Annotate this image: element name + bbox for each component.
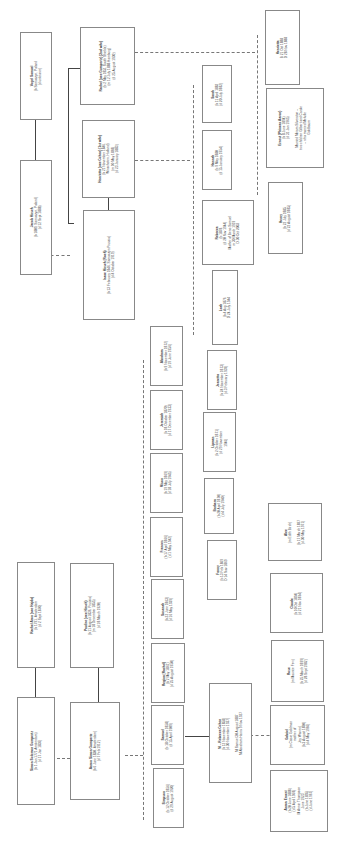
person-rose: Rose(m Maurice Few) (b 25 March 1899)(d … xyxy=(271,640,324,702)
person-detail-line: D 24 July 1944 xyxy=(227,297,231,318)
person-lipman: Lipman(b 2 October 1871)(d 29 November19… xyxy=(203,412,236,472)
person-detail-line: (d 4 July 1940) xyxy=(221,494,225,517)
dashed-henrietta-children xyxy=(135,160,190,161)
dashed-rachel-children xyxy=(135,52,255,53)
dashed-rachel-children-v xyxy=(257,35,258,195)
person-detail-line: M Abraham Harris 9 Nov 1927 xyxy=(239,712,243,755)
person-detail-line: (m 18 December 1855) xyxy=(92,596,96,635)
person-aaron-gumpertz: Aaron Simon Gumpertz(b 6 June 1830, Amst… xyxy=(70,702,120,800)
person-fanny: Fanny(b 13 Feb 1869D 14 Nov 1869 xyxy=(207,540,237,600)
person-detail-line: (b 9 May 1880 xyxy=(215,146,219,175)
person-frances: Frances(b 17 April 1866)(d 1 May 1942) xyxy=(150,517,183,577)
person-henrietta-cohen: Henrietta (nee Cohen) (1st wife)(b 21 No… xyxy=(82,120,135,198)
person-name: Pauline (nee Hirsch) xyxy=(84,596,88,635)
person-detail-line: (b 24 November 1873) xyxy=(220,364,224,396)
person-text: Lipman(b 2 October 1871)(d 29 November19… xyxy=(211,429,228,456)
person-detail-line: (d 18 July 1945) xyxy=(169,471,173,494)
dashed-second-gen-v xyxy=(143,360,144,820)
person-pauline: Pauline (nee Hirsch)(b 11 August 1836, P… xyxy=(70,563,114,668)
person-text: Susanah(b 22 June 1863)(d 16 May 1939) xyxy=(161,597,174,621)
person-detail-line: (b 4 Aug 1876 xyxy=(223,297,227,318)
person-claude: Claude(b 10 Oct 1894)(d 21 Nov 1894) xyxy=(270,573,323,633)
person-jacob-hirsch: Jacob Hirsch(b 1809, Samoczyn, Poland)(d… xyxy=(20,160,52,275)
person-text: Simpson(b 12 October 1856)(d 29 August 1… xyxy=(162,784,175,813)
person-text: HenriettaB 21 Oct 1888D 28 Nov 1888 xyxy=(276,37,289,58)
person-ernest: Ernest (Phineas Aaron)(b 8 June 1894)(d … xyxy=(266,88,324,168)
person-name: Rachel Aron (nee Hajda) xyxy=(30,597,34,634)
person-detail-line: (d 4 October 1919) xyxy=(111,236,115,294)
person-text: Jeanetta(b 24 November 1873)(d 3 Februar… xyxy=(216,364,229,396)
person-susanah: Susanah(b 22 June 1863)(d 16 May 1939) xyxy=(151,579,184,639)
person-detail-line: (d 16 May 1939) xyxy=(170,597,174,621)
person-detail-line: (d 7 Feb 1912) xyxy=(97,731,101,771)
person-rachel-gumpertz: Rachel (nee Gumpertz) (2nd wife)(b 2 May… xyxy=(80,27,135,105)
person-text: Henrietta (nee Cohen) (1st wife)(b 21 No… xyxy=(98,135,119,183)
person-detail-line: (b 13 Feb 1869 xyxy=(220,559,224,581)
person-text: Pauline (nee Hirsch)(b 11 August 1836, P… xyxy=(84,596,101,635)
person-isaac-hirsch: Isaac Hirsch (Roeh)(b 13 February 1846, … xyxy=(83,210,135,320)
person-text: Regina (Rachel)(b 2 May 1861)(d 25 Augus… xyxy=(162,660,175,687)
person-regina: Regina (Rachel)(b 2 May 1861)(d 25 Augus… xyxy=(151,643,185,703)
person-text: M – Rebecca Cohen(b 12 November 1858)(d … xyxy=(218,712,243,755)
connector-isaac-h xyxy=(68,223,74,224)
person-mison: Mison(b 19 May 1869)(d 18 July 1945) xyxy=(150,453,183,513)
person-detail-line: (d 1 May 1942) xyxy=(169,535,173,558)
person-henry: Henry(b 22 July 1885(d 22 August 1885) xyxy=(268,182,303,254)
person-detail-line: (d 25 August 1930) xyxy=(112,41,116,91)
person-detail-line: (d 25 August 1950) xyxy=(170,660,174,687)
person-text: Rachel (nee Gumpertz) (2nd wife)(b 2 May… xyxy=(99,41,116,91)
person-leah: Leah(b 4 Aug 1876D 24 July 1944 xyxy=(212,270,238,345)
connector-jacob-isaac xyxy=(68,68,80,69)
person-detail-line: (b 11 April 1882 xyxy=(215,83,219,106)
person-detail-line: (b 1809, Samoczyn, Poland) xyxy=(34,197,38,237)
person-detail-line: (d 17 Jan 1836) xyxy=(38,731,42,771)
person-detail-line: (b 1 Jan 1771 Amsterdam) xyxy=(34,731,38,771)
person-text: Sarah(b 11 April 1882(d 20 July 1882) xyxy=(211,83,224,106)
person-detail-line: (d 12 Sept 1888) xyxy=(38,197,42,237)
person-aaron-ernest: Aaron Ernest(b 20 June 1888)(d 5 April 1… xyxy=(270,770,328,832)
person-text: Ernest (Phineas Aaron)(b 8 June 1894)(d … xyxy=(278,106,312,150)
connector-rachela-simon xyxy=(35,668,36,698)
dashed-henrietta-children-v xyxy=(193,85,194,335)
person-detail-line: (b 2 May 1861) xyxy=(166,660,170,687)
person-detail-line: (d 18 March 1920) xyxy=(96,596,100,635)
person-detail-line: (d 22 August 1885) xyxy=(288,205,292,232)
person-detail-line: D 28 Nov 1888 xyxy=(285,37,289,58)
dashed-aaron-children xyxy=(125,755,143,756)
person-simpson: Simpson(b 12 October 1856)(d 29 August 1… xyxy=(153,768,184,828)
person-text: Barbara(b 20 April 1870)(d 4 July 1940) xyxy=(213,494,226,517)
person-detail-line: D 30 Oct 2003 xyxy=(236,216,240,250)
person-detail-line: (d 17 December 1933) xyxy=(169,404,173,436)
connector-pauline-aaron xyxy=(98,668,99,703)
person-detail-line: (d 30 May 1971) xyxy=(301,520,305,545)
person-name: Simon Solomon Gumpertz xyxy=(30,731,34,771)
person-text: Hannah(b 9 May 1880(d 15 January 1954) xyxy=(211,146,224,175)
person-detail-line: 1946) xyxy=(224,429,228,456)
person-simon-gumpertz: Simon Solomon Gumpertz(b 1 Jan 1771 Amst… xyxy=(17,697,55,805)
person-text: Aaron Ernest(b 20 June 1888)(d 5 April 1… xyxy=(284,787,313,814)
person-detail-line: (d 29 August 1920) xyxy=(171,784,175,813)
person-samuel: Samuel(b 18 October 1858)(d 15 April 190… xyxy=(151,705,184,765)
person-detail-line: (d 28 Sept 1982) xyxy=(304,658,308,684)
person-rebecca-cohen: M – Rebecca Cohen(b 12 November 1858)(d … xyxy=(209,683,252,783)
person-sarah: Sarah(b 11 April 1882(d 20 July 1882) xyxy=(202,65,232,123)
person-text: Simon Solomon Gumpertz(b 1 Jan 1771 Amst… xyxy=(30,731,43,771)
person-detail-line: (d 15 January 1954) xyxy=(219,146,223,175)
person-text: Gabriel(m Cissie Goldmanmother ofJey War… xyxy=(285,721,310,748)
person-detail-line: (d June 1967) xyxy=(310,787,314,814)
person-text: Rachel Aron (nee Hajda)(b 1791, Amsterda… xyxy=(30,597,43,634)
connector-vogel-jacob xyxy=(35,120,36,160)
connector-isaac-wives xyxy=(68,68,69,223)
person-abraham: Abraham(b 9 November 1872)(d 19 June 195… xyxy=(150,326,183,386)
person-detail-line: (b 6 June 1830, Amsterdam) xyxy=(93,731,97,771)
person-detail-line: (d 23 January 1883) xyxy=(115,135,119,183)
person-text: Leah(b 4 Aug 1876D 24 July 1944 xyxy=(219,297,232,318)
person-detail-line: (b Samoczyn, Poland xyxy=(34,61,38,91)
person-jeanetta: Jeanetta(b 24 November 1873)(d 3 Februar… xyxy=(207,350,237,410)
person-barbara: Barbara(b 20 April 1870)(d 4 July 1940) xyxy=(204,478,234,534)
person-text: Henry(b 22 July 1885(d 22 August 1885) xyxy=(279,205,292,232)
person-text: Jeremiah(b 18 October 1870)(d 17 Decembe… xyxy=(160,404,173,436)
person-detail-line: (d 19 June 1956) xyxy=(169,341,173,371)
person-alec: Alec(m Edith Birch) (b 17 March 1897(d 3… xyxy=(268,503,322,561)
person-text: Frances(b 17 April 1866)(d 1 May 1942) xyxy=(160,535,173,558)
